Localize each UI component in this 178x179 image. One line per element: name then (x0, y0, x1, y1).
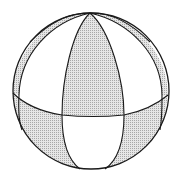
shaded-upper-front-center (62, 13, 124, 117)
sphere-diagram: Sphere divided into octants by equator a… (0, 0, 178, 179)
sphere-svg (0, 0, 178, 179)
